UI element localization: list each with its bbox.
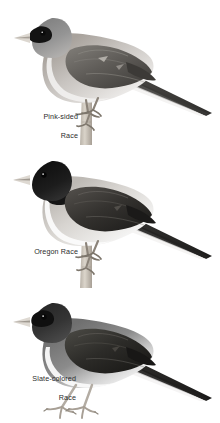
caption-line-1: Oregon Race [14, 247, 78, 256]
bill [13, 317, 30, 327]
caption-line-2: Race [16, 131, 78, 140]
illustration-plate: Pink-sided Race [0, 0, 220, 423]
head [32, 161, 72, 201]
eye-highlight [42, 315, 44, 317]
bill [14, 33, 30, 43]
eye-highlight [42, 173, 44, 175]
eye-highlight [41, 31, 43, 33]
caption-oregon: Oregon Race [14, 238, 78, 266]
caption-line-1: Slate-colored [6, 374, 76, 383]
eye-patch [29, 26, 52, 43]
eye [41, 314, 46, 319]
eye [40, 30, 45, 35]
eye [41, 172, 46, 177]
caption-line-1: Pink-sided [16, 112, 78, 121]
caption-slate-colored: Slate-colored Race [6, 365, 76, 411]
bird-illustration-oregon [0, 143, 220, 288]
bird-panel-slate-colored: Slate-colored Race [0, 285, 220, 423]
bill [13, 175, 30, 185]
bird-panel-oregon: Oregon Race [0, 143, 220, 285]
caption-line-2: Race [6, 393, 76, 402]
bird-panel-pink-sided: Pink-sided Race [0, 0, 220, 148]
